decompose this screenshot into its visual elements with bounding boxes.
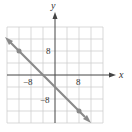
point-8-neg12 [77, 109, 82, 114]
y-tick-8: 8 [46, 46, 51, 56]
y-tick-neg8: −8 [40, 95, 50, 105]
x-axis-label: x [118, 69, 124, 80]
y-axis-label: y [50, 0, 56, 11]
coordinate-graph: x y −8 8 8 −8 [0, 0, 132, 132]
x-tick-8: 8 [76, 77, 81, 87]
axes [7, 16, 112, 123]
x-axis-arrow-icon [109, 73, 116, 78]
y-axis-arrow-icon [53, 12, 58, 19]
point-neg12-8 [17, 49, 22, 54]
x-tick-neg8: −8 [23, 77, 33, 87]
